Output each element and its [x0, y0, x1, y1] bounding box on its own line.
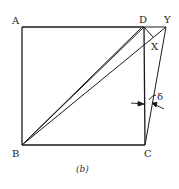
angle-arc — [149, 95, 156, 100]
segment-dx — [144, 27, 153, 37]
label-b: B — [12, 148, 19, 159]
label-c: C — [144, 148, 152, 159]
label-delta: δ — [157, 91, 163, 102]
label-a: A — [11, 15, 20, 26]
label-x: X — [151, 41, 159, 52]
label-d: D — [139, 14, 147, 25]
arrow-left-head — [138, 102, 144, 107]
shear-diagram: A D Y X B C δ (b) — [0, 0, 179, 189]
arrow-right-head — [152, 103, 157, 108]
label-y: Y — [163, 14, 171, 25]
diagonal-bd-2 — [22, 28, 141, 145]
figure-caption: (b) — [76, 164, 89, 174]
